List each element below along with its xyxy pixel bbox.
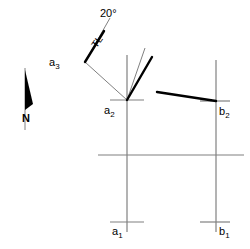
north-label: N xyxy=(22,113,30,124)
fold-line-a3-a2 xyxy=(85,62,127,100)
point-label-b2: b2 xyxy=(219,106,230,120)
technical-diagram: 20° TL N a3 a2 b2 a1 b1 xyxy=(0,0,250,249)
point-label-a1-subscript: 1 xyxy=(118,231,122,240)
point-label-b1-subscript: 1 xyxy=(225,231,229,240)
point-label-a3: a3 xyxy=(49,57,60,71)
point-label-a2: a2 xyxy=(104,105,115,119)
point-label-b1: b1 xyxy=(219,226,230,240)
angle-label: 20° xyxy=(100,8,117,19)
point-label-a3-subscript: 3 xyxy=(55,62,59,71)
thick-line-b2 xyxy=(157,92,216,101)
point-label-a1: a1 xyxy=(112,226,123,240)
point-label-b2-subscript: 2 xyxy=(225,111,229,120)
diagram-canvas xyxy=(0,0,250,249)
point-label-a2-subscript: 2 xyxy=(110,110,114,119)
